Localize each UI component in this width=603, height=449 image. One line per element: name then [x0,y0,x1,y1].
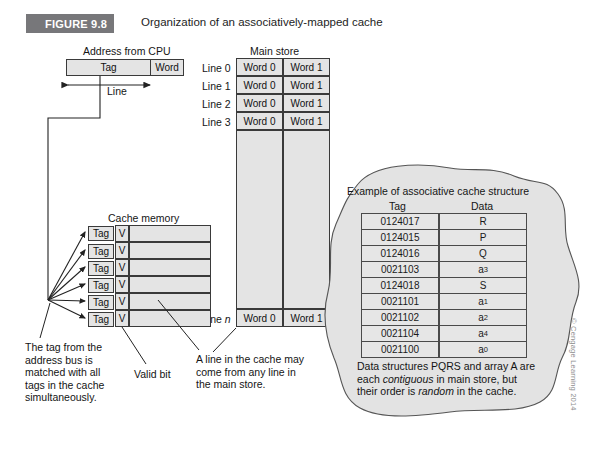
assoc-row-5-tag: 0021101 [361,293,439,310]
main-store-blank-word0 [236,130,283,309]
assoc-footnote: Data structures PQRS and array A are eac… [357,360,537,398]
cache-row-2-valid: V [115,259,129,276]
annotation-line-origin: A line in the cache may come from any li… [196,353,306,391]
figure-canvas: FIGURE 9.8 Organization of an associativ… [0,0,603,449]
cache-row-0-data [129,225,211,242]
main-store-cell-n-word0: Word 0 [236,309,283,327]
main-store-cell-0-word1: Word 1 [283,58,330,76]
fan-arrow-1 [48,250,85,300]
main-store-cell-2-word0: Word 0 [236,94,283,112]
main-store-row-label-0: Line 0 [202,62,231,74]
assoc-row-3-tag: 0021103 [361,261,439,278]
assoc-row-4-tag: 0124018 [361,277,439,294]
leader-main-store [213,328,236,352]
cache-row-3-valid: V [115,276,129,293]
annotation-valid-bit: Valid bit [134,368,171,381]
main-store-cell-3-word1: Word 1 [283,112,330,130]
assoc-column-header-tag: Tag [389,200,406,212]
main-store-cell-1-word1: Word 1 [283,76,330,94]
annotation-tag-match: The tag from the address bus is matched … [25,341,117,404]
fan-arrow-5 [48,300,85,318]
cache-row-0-tag: Tag [88,226,114,241]
main-store-row-label-1: Line 1 [202,80,231,92]
assoc-row-2-data: Q [439,245,527,262]
assoc-row-0-tag: 0124017 [361,213,439,230]
cache-row-5-tag: Tag [88,312,114,327]
fan-arrow-4 [48,300,85,301]
fan-arrow-2 [48,267,85,300]
main-store-cell-2-word1: Word 1 [283,94,330,112]
assoc-row-5-data: a1 [439,293,527,310]
cache-row-2-tag: Tag [88,261,114,276]
main-store-cell-1-word0: Word 0 [236,76,283,94]
assoc-row-6-tag: 0021102 [361,309,439,326]
cache-row-3-tag: Tag [88,278,114,293]
cache-row-5-valid: V [115,310,129,327]
assoc-row-1-tag: 0124015 [361,229,439,246]
cache-row-4-data [129,293,211,310]
assoc-example-title: Example of associative cache structure [347,185,529,197]
figure-header: FIGURE 9.8 Organization of an associativ… [0,14,603,38]
assoc-row-4-data: S [439,277,527,294]
assoc-row-8-data: a0 [439,341,527,358]
address-line-label: Line [107,85,127,97]
cache-row-0-valid: V [115,225,129,242]
assoc-row-1-data: P [439,229,527,246]
cache-row-4-tag: Tag [88,295,114,310]
main-store-cell-0-word0: Word 0 [236,58,283,76]
assoc-column-header-data: Data [471,200,493,212]
assoc-row-2-tag: 0124016 [361,245,439,262]
main-store-cell-3-word0: Word 0 [236,112,283,130]
address-from-cpu-title: Address from CPU [83,45,171,57]
figure-caption: Organization of an associatively-mapped … [141,16,383,28]
assoc-row-7-data: a4 [439,325,527,342]
cache-row-5-data [129,310,211,327]
assoc-row-6-data: a2 [439,309,527,326]
main-store-row-label-2: Line 2 [202,98,231,110]
cache-row-1-tag: Tag [88,244,114,259]
cache-row-3-data [129,276,211,293]
main-store-title: Main store [250,45,299,57]
assoc-row-0-data: R [439,213,527,230]
cache-row-4-valid: V [115,293,129,310]
assoc-row-8-tag: 0021100 [361,341,439,358]
fan-arrow-3 [48,284,85,300]
fan-arrow-0 [48,232,85,300]
main-store-row-label-3: Line 3 [202,116,231,128]
address-tag-field: Tag [66,59,151,76]
cache-memory-title: Cache memory [108,212,179,224]
assoc-row-3-data: a3 [439,261,527,278]
leader-valid-bit [122,327,146,364]
leader-tag-match [40,303,50,338]
cache-row-2-data [129,259,211,276]
cache-row-1-valid: V [115,242,129,259]
cache-row-1-data [129,242,211,259]
copyright-notice: © Cengage Learning 2014 [569,318,578,411]
figure-number-badge: FIGURE 9.8 [26,14,114,33]
address-word-field: Word [150,59,184,76]
assoc-row-7-tag: 0021104 [361,325,439,342]
